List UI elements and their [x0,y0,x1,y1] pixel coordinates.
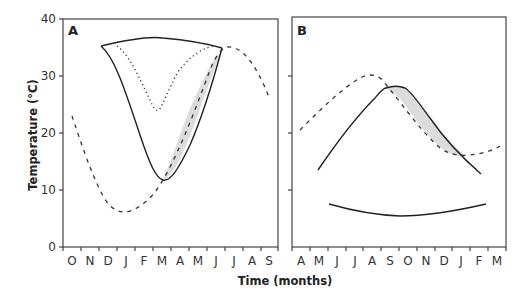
x-tick: J [458,254,463,268]
x-tick: J [213,254,218,268]
x-tick: J [352,254,357,268]
x-tick: J [334,254,339,268]
x-tick: N [86,254,95,268]
x-tick: A [297,254,306,268]
x-tick: A [248,254,257,268]
y-tick-20: 20 [41,126,56,140]
solid-upper-a [101,37,222,48]
y-tick-labels: 0 10 20 30 40 [41,12,56,254]
panel-label-a: A [68,23,78,38]
x-tick: M [193,254,203,268]
y-tick-0: 0 [48,240,56,254]
panel-a: O N D J F M A M J J A S A [59,19,278,268]
x-tick: D [439,254,448,268]
x-tick: A [368,254,377,268]
y-tick-40: 40 [41,12,56,26]
y-tick-10: 10 [41,183,56,197]
x-tick: J [231,254,236,268]
y-axis-title: Temperature (°C) [26,79,40,190]
x-tick: M [157,254,167,268]
x-tick: S [265,254,273,268]
panel-label-b: B [297,23,307,38]
x-tick: O [403,254,412,268]
x-tick: F [141,254,148,268]
x-tick-labels-a: O N D J F M A M J J A S [67,254,273,268]
figure: Temperature (°C) 0 10 20 30 40 [0,0,523,298]
panel-b: A M J J A S O N D J F M B [288,17,506,268]
solid-lower-b [329,204,486,216]
solid-lower-a [101,46,222,180]
x-tick-labels-b: A M J J A S O N D J F M [297,254,502,268]
y-tick-30: 30 [41,69,56,83]
x-tick: D [103,254,112,268]
x-tick: S [386,254,394,268]
x-tick: A [176,254,185,268]
x-tick: M [314,254,324,268]
x-tick: O [67,254,76,268]
dashed-line-a [72,47,270,212]
x-tick: M [492,254,502,268]
x-tick: J [123,254,128,268]
solid-upper-b [318,87,481,175]
x-axis-title: Time (months) [238,274,333,288]
x-tick: N [422,254,431,268]
shaded-region-b [386,87,466,157]
x-tick: F [476,254,483,268]
